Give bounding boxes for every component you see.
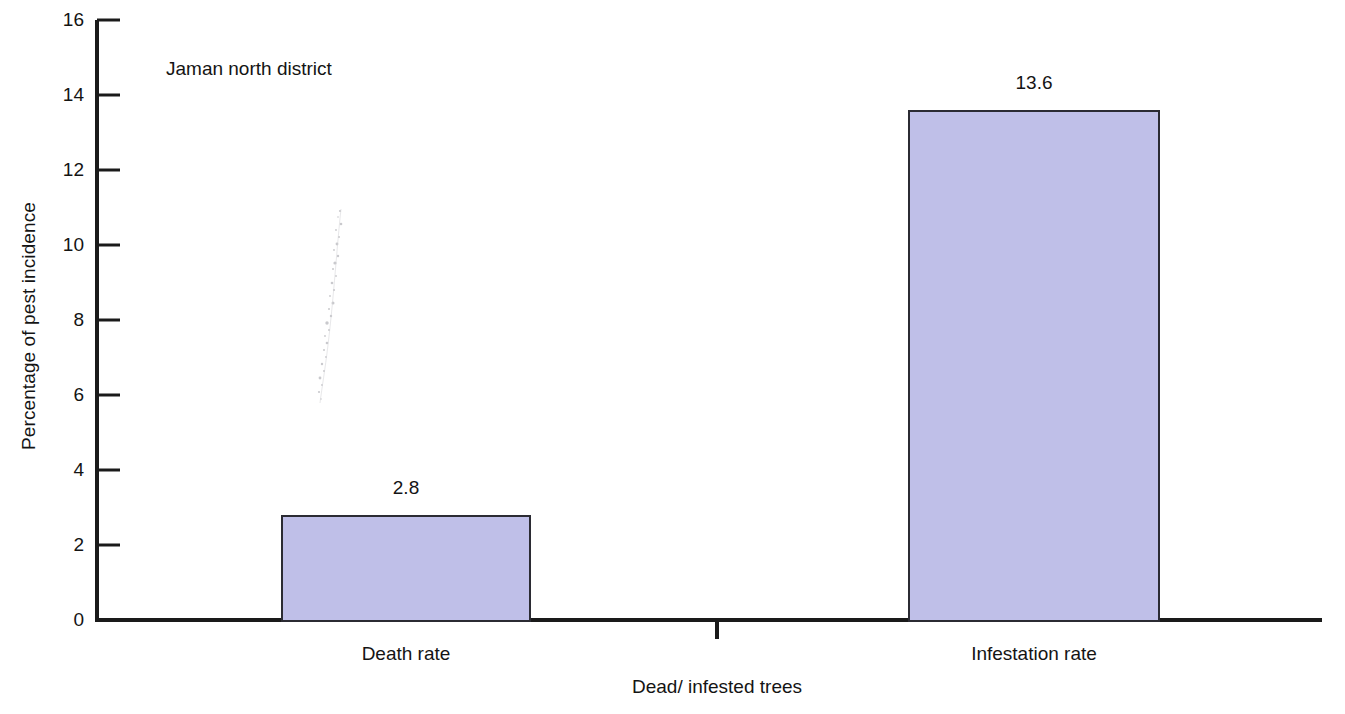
bar-value-label-death-rate: 2.8 (331, 477, 481, 499)
y-axis-tick-label: 0 (22, 609, 84, 631)
x-axis-tick-label-infestation-rate: Infestation rate (934, 643, 1134, 665)
y-axis-tick-label: 16 (22, 9, 84, 31)
bar-value-label-infestation-rate: 13.6 (959, 72, 1109, 94)
bar-infestation-rate (908, 110, 1160, 622)
chart-annotation: Jaman north district (166, 58, 332, 80)
y-axis-title: Percentage of pest incidence (18, 166, 40, 486)
bar-chart: 16 14 12 10 8 6 4 2 0 Jaman north distri… (0, 0, 1345, 714)
x-axis-tick-label-death-rate: Death rate (306, 643, 506, 665)
y-axis-tick-label: 14 (22, 84, 84, 106)
y-axis-tick-label: 2 (22, 534, 84, 556)
bar-death-rate (281, 515, 531, 622)
x-axis-title: Dead/ infested trees (437, 676, 997, 698)
